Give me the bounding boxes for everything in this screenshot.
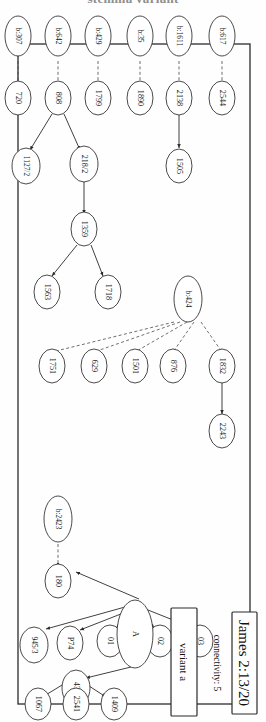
node-label: 1505	[175, 158, 184, 174]
node-629[interactable]: 629	[81, 349, 107, 383]
node-b1611[interactable]: b:1611	[166, 16, 192, 56]
node-1890[interactable]: 1890	[127, 81, 153, 115]
node-1501[interactable]: 1501	[122, 349, 148, 383]
node-label: A	[131, 631, 140, 637]
node-1505[interactable]: 1505	[166, 149, 192, 183]
node-1359[interactable]: 1359	[71, 212, 97, 246]
node-label: 1890	[136, 90, 145, 106]
edge-b424-1751	[52, 322, 174, 352]
stemma-svg: b:617 b:1611 b:35 b:429 b:642	[0, 0, 266, 722]
node-label: 1718	[104, 284, 113, 300]
node-label: 2138	[175, 90, 184, 106]
node-label: b:35	[136, 29, 145, 42]
edge-A-436	[86, 667, 131, 678]
node-b307[interactable]: b:307	[5, 16, 31, 56]
node-1563[interactable]: 1563	[34, 275, 60, 309]
node-945-3[interactable]: 945/3	[20, 627, 48, 663]
node-2243[interactable]: 2243	[209, 414, 235, 448]
node-label: 1409	[110, 696, 119, 712]
node-label: 2243	[218, 423, 227, 439]
node-label: 1067	[34, 696, 43, 712]
node-label: P74	[66, 637, 75, 650]
node-label: b:429	[94, 28, 103, 45]
node-P74[interactable]: P74	[57, 626, 83, 660]
node-2541[interactable]: 2541	[63, 688, 89, 720]
node-876[interactable]: 876	[160, 349, 186, 383]
node-1832[interactable]: 1832	[209, 349, 235, 383]
node-label: 1832	[218, 358, 227, 374]
node-b2423[interactable]: b:2423	[44, 496, 72, 542]
node-1751[interactable]: 1751	[39, 349, 65, 383]
edge-b424-1501	[135, 322, 187, 352]
node-2544[interactable]: 2544	[209, 81, 235, 115]
variant-label: variant a	[178, 643, 190, 681]
node-label: b:617	[218, 28, 227, 45]
figure-canvas: stemma variant	[0, 0, 266, 722]
node-label: 1127/2	[22, 156, 31, 177]
node-1409[interactable]: 1409	[101, 688, 127, 720]
node-808[interactable]: 808	[45, 81, 71, 115]
node-720[interactable]: 720	[5, 81, 31, 115]
edge-1359-1718	[91, 245, 103, 276]
edge-b424-1832	[201, 322, 222, 352]
node-label: 218/2	[80, 155, 89, 174]
node-label: 629	[90, 360, 99, 372]
node-A[interactable]: A	[117, 600, 153, 668]
node-label: 945/3	[30, 637, 39, 654]
node-label: 1563	[43, 284, 52, 300]
caption-group: James 2:13/20 connectivity: 5 variant a	[171, 608, 257, 716]
node-label: 01	[106, 637, 115, 645]
node-label: 180	[54, 575, 63, 587]
node-1718[interactable]: 1718	[95, 275, 121, 309]
node-label: 1799	[94, 90, 103, 106]
node-1127-2[interactable]: 1127/2	[12, 148, 40, 184]
node-label: 876	[169, 360, 178, 372]
node-2138[interactable]: 2138	[166, 81, 192, 115]
node-label: b:2423	[54, 509, 63, 530]
node-1067[interactable]: 1067	[25, 688, 51, 720]
node-b642[interactable]: b:642	[45, 16, 71, 56]
node-label: b:307	[14, 28, 23, 45]
rotated-diagram-layer: b:617 b:1611 b:35 b:429 b:642	[0, 0, 266, 722]
node-b424[interactable]: b:424	[174, 276, 202, 322]
node-label: 02	[156, 637, 165, 645]
edge-1359-1563	[52, 245, 77, 276]
passage-label: James 2:13/20	[236, 620, 252, 706]
node-b617[interactable]: b:617	[209, 16, 235, 56]
node-180[interactable]: 180	[45, 564, 71, 598]
node-label: 1501	[131, 358, 140, 374]
node-label: 808	[54, 92, 63, 104]
edge-b424-876	[173, 322, 194, 352]
node-1799[interactable]: 1799	[85, 81, 111, 115]
node-b429[interactable]: b:429	[85, 16, 111, 56]
internal-node-group: 2544 2138 1505 1890 1799	[5, 81, 235, 720]
node-label: 720	[14, 92, 23, 104]
node-b35[interactable]: b:35	[127, 16, 153, 56]
node-label: b:424	[184, 291, 193, 308]
node-label: b:1611	[175, 26, 184, 47]
node-label: 2544	[218, 90, 227, 106]
node-label: 2541	[72, 696, 81, 712]
node-label: b:642	[54, 28, 63, 45]
node-218-2[interactable]: 218/2	[70, 146, 98, 182]
node-label: 1751	[48, 358, 57, 374]
edge-808-218-2	[64, 114, 80, 150]
edge-808-1127-2	[30, 114, 52, 150]
connectivity-label: connectivity: 5	[212, 635, 222, 692]
edge-A-180	[76, 572, 139, 599]
node-label: 1359	[80, 221, 89, 237]
edge-b424-629	[94, 322, 180, 352]
